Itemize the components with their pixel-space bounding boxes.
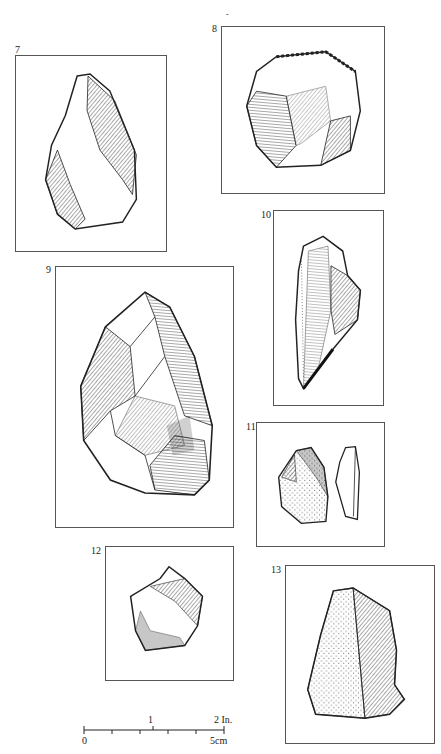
figure-13-label: 13 <box>271 565 281 575</box>
figure-8-panel <box>221 26 385 194</box>
figure-8-label: 8 <box>212 24 217 34</box>
figure-11-label: 11 <box>246 422 256 432</box>
scale-ruler <box>82 725 242 735</box>
figure-12-panel <box>105 546 234 681</box>
figure-7-panel <box>15 55 167 252</box>
figure-11-panel <box>256 422 385 547</box>
scale-inch-2-label: 2 In. <box>214 715 232 725</box>
scale-bar: 1 2 In. 0 5cm <box>82 715 242 745</box>
figure-10-panel <box>273 210 384 406</box>
scale-5cm-label: 5cm <box>210 736 227 746</box>
figure-11-artifact-drawing <box>257 423 384 546</box>
figure-9-panel <box>55 266 234 528</box>
figure-9-label: 9 <box>46 265 51 275</box>
scale-inch-1-label: 1 <box>148 715 153 725</box>
figure-9-artifact-drawing <box>56 267 233 527</box>
figure-12-artifact-drawing <box>106 547 233 680</box>
figure-8-artifact-drawing <box>222 27 384 193</box>
figure-10-label: 10 <box>261 210 271 220</box>
figure-13-panel <box>285 565 435 744</box>
figure-10-artifact-drawing <box>274 211 383 405</box>
scale-zero-label: 0 <box>82 736 87 746</box>
stray-mark: - <box>226 10 229 19</box>
figure-12-label: 12 <box>91 546 101 556</box>
figure-13-artifact-drawing <box>286 566 434 743</box>
figure-7-artifact-drawing <box>16 56 166 251</box>
figure-7-label: 7 <box>15 45 20 55</box>
